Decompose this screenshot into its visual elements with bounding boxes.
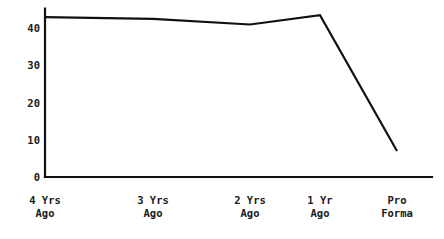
data-series-line [45, 15, 397, 151]
x-tick-label-0-line-1: Ago [0, 207, 95, 220]
x-tick-label-0-line-0: 4 Yrs [0, 194, 95, 207]
x-tick-label-1-line-0: 3 Yrs [103, 194, 203, 207]
chart-axes [45, 9, 432, 177]
x-tick-label-4-line-1: Forma [347, 207, 444, 220]
data-series-group [45, 15, 397, 151]
x-tick-label-1: 3 YrsAgo [103, 194, 203, 220]
x-tick-label-0: 4 YrsAgo [0, 194, 95, 220]
x-tick-label-1-line-1: Ago [103, 207, 203, 220]
x-tick-label-4: ProForma [347, 194, 444, 220]
line-chart: 010203040 4 YrsAgo3 YrsAgo2 YrsAgo1 YrAg… [0, 0, 444, 239]
x-tick-label-4-line-0: Pro [347, 194, 444, 207]
